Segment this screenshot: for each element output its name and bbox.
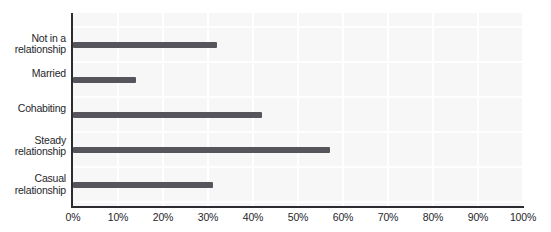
x-tick-label: 50% — [276, 211, 320, 223]
plot-area — [73, 13, 523, 207]
relationship-status-bar-chart: Not in a relationshipMarriedCohabitingSt… — [0, 0, 551, 232]
grid-line-horizontal — [73, 166, 523, 168]
grid-line-horizontal — [73, 96, 523, 98]
x-tick-label: 80% — [411, 211, 455, 223]
grid-line-vertical — [342, 13, 344, 207]
grid-line-vertical — [522, 13, 523, 207]
category-label: Steady relationship — [0, 134, 66, 157]
grid-line-vertical — [252, 13, 254, 207]
bar-cohabiting — [73, 112, 262, 118]
x-tick-label: 70% — [366, 211, 410, 223]
category-label: Cohabiting — [0, 103, 66, 115]
x-tick-label: 100% — [501, 211, 545, 223]
bar-steady-relationship — [73, 147, 330, 153]
category-label: Casual relationship — [0, 173, 66, 196]
x-tick-label: 60% — [321, 211, 365, 223]
grid-line-vertical — [432, 13, 434, 207]
x-tick-label: 0% — [51, 211, 95, 223]
y-axis-line — [71, 13, 73, 208]
bar-married — [73, 77, 136, 83]
grid-line-vertical — [387, 13, 389, 207]
x-tick-label: 30% — [186, 211, 230, 223]
grid-line-horizontal — [73, 201, 523, 203]
grid-line-horizontal — [73, 61, 523, 63]
bar-not-in-a-relationship — [73, 42, 217, 48]
category-label: Married — [0, 68, 66, 80]
bar-casual-relationship — [73, 182, 213, 188]
grid-line-horizontal — [73, 131, 523, 133]
x-tick-label: 10% — [96, 211, 140, 223]
x-axis-line — [71, 206, 524, 208]
x-tick-label: 90% — [456, 211, 500, 223]
grid-line-vertical — [297, 13, 299, 207]
grid-line-vertical — [477, 13, 479, 207]
x-tick-label: 40% — [231, 211, 275, 223]
category-label: Not in a relationship — [0, 32, 66, 55]
grid-line-horizontal — [73, 26, 523, 28]
x-tick-label: 20% — [141, 211, 185, 223]
category-axis-labels: Not in a relationshipMarriedCohabitingSt… — [0, 0, 66, 232]
